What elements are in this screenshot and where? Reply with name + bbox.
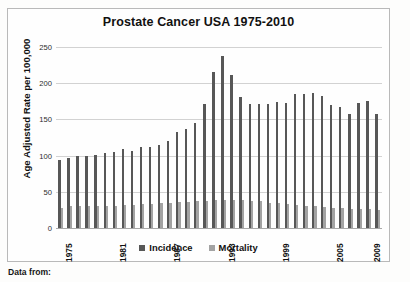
bar-mortality[interactable] [97, 206, 99, 228]
bar-mortality[interactable] [341, 208, 343, 228]
bar-mortality[interactable] [369, 209, 371, 228]
bar-group[interactable] [165, 47, 174, 228]
bar-group[interactable] [147, 47, 156, 228]
bar-mortality[interactable] [106, 206, 108, 228]
bar-group[interactable] [264, 47, 273, 228]
bar-mortality[interactable] [133, 205, 135, 228]
bar-group[interactable] [283, 47, 292, 228]
bar-group[interactable] [119, 47, 128, 228]
bar-mortality[interactable] [296, 205, 298, 228]
bar-group[interactable] [255, 47, 264, 228]
bar-group[interactable] [210, 47, 219, 228]
legend-item-incidence: Incidence [139, 242, 192, 253]
bar-mortality[interactable] [332, 208, 334, 228]
bar-mortality[interactable] [233, 200, 235, 228]
bar-mortality[interactable] [160, 203, 162, 228]
y-axis-label: Age Adjusted Rate per 100,000 [21, 21, 32, 197]
bar-mortality[interactable] [88, 206, 90, 228]
bar-group[interactable] [83, 47, 92, 228]
bar-mortality[interactable] [242, 200, 244, 228]
bar-group[interactable] [74, 47, 83, 228]
bar-mortality[interactable] [169, 203, 171, 228]
bar-mortality[interactable] [79, 206, 81, 228]
y-tick-label-200: 200 [39, 79, 52, 88]
bar-mortality[interactable] [269, 203, 271, 228]
bar-group[interactable] [292, 47, 301, 228]
bar-mortality[interactable] [178, 202, 180, 228]
bar-mortality[interactable] [251, 201, 253, 229]
bar-group[interactable] [192, 47, 201, 228]
bar-group[interactable] [274, 47, 283, 228]
legend-label-incidence: Incidence [149, 242, 192, 253]
plot-area: 050100150200250 [56, 47, 382, 228]
bar-group[interactable] [328, 47, 337, 228]
bar-group[interactable] [156, 47, 165, 228]
bar-mortality[interactable] [215, 200, 217, 228]
bar-group[interactable] [301, 47, 310, 228]
bar-mortality[interactable] [224, 200, 226, 228]
y-tick-label-0: 0 [48, 224, 52, 233]
bar-group[interactable] [310, 47, 319, 228]
bar-group[interactable] [56, 47, 65, 228]
bar-group[interactable] [138, 47, 147, 228]
bar-group[interactable] [201, 47, 210, 228]
y-tick-label-50: 50 [44, 187, 52, 196]
bar-group[interactable] [228, 47, 237, 228]
bar-group[interactable] [337, 47, 346, 228]
bar-group[interactable] [65, 47, 74, 228]
bar-group[interactable] [346, 47, 355, 228]
chart-legend: Incidence Mortality [8, 242, 389, 253]
bar-mortality[interactable] [206, 201, 208, 229]
y-tick-label-150: 150 [39, 115, 52, 124]
bar-mortality[interactable] [360, 209, 362, 228]
bar-group[interactable] [92, 47, 101, 228]
bar-mortality[interactable] [260, 201, 262, 228]
bar-group[interactable] [129, 47, 138, 228]
bar-group[interactable] [219, 47, 228, 228]
y-tick-label-250: 250 [39, 43, 52, 52]
page-title: Prostate Cancer USA 1975-2010 [8, 15, 389, 29]
bar-group[interactable] [373, 47, 382, 228]
bar-mortality[interactable] [278, 203, 280, 228]
y-tick-label-100: 100 [39, 151, 52, 160]
bar-mortality[interactable] [115, 206, 117, 228]
bar-mortality[interactable] [124, 205, 126, 228]
bar-mortality[interactable] [142, 204, 144, 228]
bar-group[interactable] [319, 47, 328, 228]
bar-group[interactable] [101, 47, 110, 228]
bar-mortality[interactable] [351, 209, 353, 228]
figure-caption: Data from: [8, 267, 51, 277]
legend-label-mortality: Mortality [219, 242, 258, 253]
bar-mortality[interactable] [323, 207, 325, 228]
bar-group[interactable] [237, 47, 246, 228]
legend-swatch-mortality-icon [209, 245, 215, 251]
chart-figure: Prostate Cancer USA 1975-2010 Age Adjust… [7, 8, 390, 262]
gridline-0: 0 [56, 228, 382, 229]
bar-mortality[interactable] [378, 210, 380, 228]
legend-item-mortality: Mortality [209, 242, 258, 253]
bar-series-container [56, 47, 382, 228]
bar-group[interactable] [174, 47, 183, 228]
bar-group[interactable] [364, 47, 373, 228]
bar-mortality[interactable] [287, 204, 289, 228]
bar-mortality[interactable] [61, 208, 63, 228]
bar-group[interactable] [246, 47, 255, 228]
bar-group[interactable] [110, 47, 119, 228]
bar-group[interactable] [355, 47, 364, 228]
bar-mortality[interactable] [314, 206, 316, 228]
bar-mortality[interactable] [305, 206, 307, 228]
bar-mortality[interactable] [151, 204, 153, 228]
bar-mortality[interactable] [187, 202, 189, 228]
legend-swatch-incidence-icon [139, 245, 145, 251]
bar-mortality[interactable] [70, 206, 72, 228]
bar-mortality[interactable] [196, 201, 198, 228]
bar-group[interactable] [183, 47, 192, 228]
